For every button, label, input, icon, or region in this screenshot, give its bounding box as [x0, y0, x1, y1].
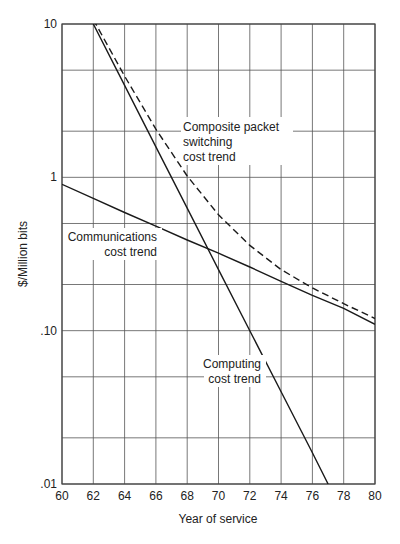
series-line — [93, 20, 375, 319]
annotation-line: cost trend — [208, 372, 261, 386]
y-axis-title: $/Million bits — [16, 221, 30, 287]
y-tick-label: 1 — [50, 170, 57, 184]
annotation-line: switching — [183, 135, 232, 149]
x-axis-title: Year of service — [179, 512, 258, 526]
x-axis-ticks: 6062646668707274767880 — [55, 489, 382, 503]
annotation-line: cost trend — [104, 245, 157, 259]
x-tick-label: 62 — [87, 489, 101, 503]
annotation-composite: Composite packet switching cost trend — [181, 117, 293, 165]
cost-trend-chart: 6062646668707274767880 .01.10110 Year of… — [0, 0, 400, 544]
x-tick-label: 70 — [212, 489, 226, 503]
annotation-communications: Communications cost trend — [66, 228, 162, 260]
annotation-line: Computing — [203, 357, 261, 371]
x-tick-label: 72 — [243, 489, 257, 503]
x-tick-label: 78 — [337, 489, 351, 503]
x-tick-label: 64 — [118, 489, 132, 503]
y-tick-label: .01 — [40, 477, 57, 491]
annotation-line: Communications — [68, 230, 157, 244]
x-tick-label: 66 — [149, 489, 163, 503]
y-tick-label: .10 — [40, 324, 57, 338]
x-tick-label: 60 — [55, 489, 69, 503]
x-tick-label: 80 — [368, 489, 382, 503]
x-tick-label: 76 — [306, 489, 320, 503]
annotation-line: Composite packet — [183, 120, 280, 134]
annotation-computing: Computing cost trend — [203, 355, 266, 387]
y-tick-label: 10 — [44, 17, 58, 31]
y-axis-ticks: .01.10110 — [40, 17, 57, 491]
x-tick-label: 74 — [274, 489, 288, 503]
x-tick-label: 68 — [181, 489, 195, 503]
annotation-line: cost trend — [183, 150, 236, 164]
